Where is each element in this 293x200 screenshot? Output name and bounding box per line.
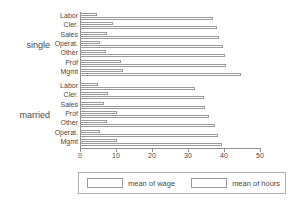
category-label: Operat. (8, 129, 78, 137)
category-label: Cler. (8, 21, 78, 29)
category-label: Cler. (8, 91, 78, 99)
bar-group-row (80, 83, 260, 92)
bar-wage (80, 60, 121, 63)
category-label: Sales (8, 101, 78, 109)
bar-wage (80, 102, 104, 105)
category-label: Mgmt (8, 138, 78, 146)
bar-group-row (80, 130, 260, 139)
bar-group-row (80, 111, 260, 120)
bar-wage (80, 32, 107, 35)
bar-group-row (80, 50, 260, 59)
bar-wage (80, 111, 117, 114)
value-axis-tick-label: 40 (220, 152, 228, 159)
bar-hours (80, 106, 205, 109)
legend-swatch-wage (87, 178, 123, 188)
bar-group-row (80, 102, 260, 111)
bar-wage (80, 83, 98, 86)
chart-canvas: single married LaborCler.SalesOperat.Oth… (0, 0, 293, 200)
bar-hours (80, 143, 222, 146)
bar-hours (80, 124, 215, 127)
legend-label-wage: mean of wage (128, 179, 175, 188)
bar-wage (80, 120, 107, 123)
bar-hours (80, 73, 241, 76)
bar-group-row (80, 13, 260, 22)
category-label: Sales (8, 31, 78, 39)
category-label: Labor (8, 12, 78, 20)
bar-group-row (80, 92, 260, 101)
bar-wage (80, 139, 117, 142)
value-axis-tick-label: 20 (148, 152, 156, 159)
category-axis-labels: LaborCler.SalesOperat.OtherProfMgmtLabor… (4, 12, 78, 148)
bar-group-row (80, 120, 260, 129)
chart-legend: mean of wage mean of hours (78, 172, 286, 194)
bar-wage (80, 13, 97, 16)
bar-wage (80, 92, 108, 95)
value-axis-tick-label: 10 (112, 152, 120, 159)
bar-hours (80, 87, 195, 90)
legend-item-wage: mean of wage (87, 178, 175, 188)
category-label: Prof (8, 110, 78, 118)
bars-plot-area (80, 12, 260, 148)
bar-wage (80, 41, 100, 44)
category-label: Prof (8, 59, 78, 67)
bar-group-row (80, 69, 260, 78)
bar-hours (80, 134, 218, 137)
bar-hours (80, 36, 219, 39)
legend-swatch-hours (191, 178, 227, 188)
bar-hours (80, 64, 226, 67)
bar-hours (80, 96, 204, 99)
category-label: Other (8, 119, 78, 127)
category-label: Operat. (8, 40, 78, 48)
legend-item-hours: mean of hours (191, 178, 280, 188)
category-label: Mgmt (8, 68, 78, 76)
bar-wage (80, 22, 113, 25)
bar-wage (80, 130, 100, 133)
bar-hours (80, 45, 223, 48)
bar-hours (80, 115, 209, 118)
bar-group-row (80, 41, 260, 50)
bar-group-row (80, 32, 260, 41)
legend-label-hours: mean of hours (232, 179, 280, 188)
value-axis-tick-label: 30 (184, 152, 192, 159)
bar-group-row (80, 60, 260, 69)
bar-hours (80, 26, 217, 29)
bar-group-row (80, 22, 260, 31)
value-axis-tick-label: 0 (78, 152, 82, 159)
bar-hours (80, 54, 225, 57)
bar-group-row (80, 139, 260, 148)
bar-wage (80, 69, 123, 72)
value-axis-tick-label: 50 (256, 152, 264, 159)
value-axis-ticks: 01020304050 (80, 149, 261, 165)
category-label: Labor (8, 82, 78, 90)
bar-hours (80, 17, 213, 20)
bar-wage (80, 50, 106, 53)
category-label: Other (8, 49, 78, 57)
